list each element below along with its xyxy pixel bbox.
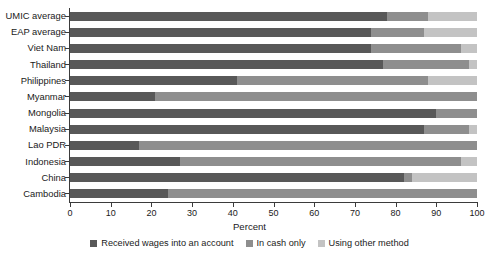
y-axis-tick [65, 145, 69, 146]
y-axis-category-label: Thailand [0, 60, 66, 70]
y-axis-category-label: EAP average [0, 27, 66, 37]
legend-item: In cash only [246, 238, 306, 248]
y-axis-tick [65, 161, 69, 162]
bar-row [70, 44, 477, 53]
x-axis-tick-label: 20 [136, 208, 166, 218]
bar-segment [70, 157, 180, 166]
bar-segment [70, 141, 139, 150]
legend-label: Using other method [329, 238, 409, 248]
x-axis-tick-label: 40 [218, 208, 248, 218]
x-axis-tick [314, 203, 315, 207]
y-axis-tick [65, 64, 69, 65]
stacked-bar-chart: UMIC averageEAP averageViet NamThailandP… [0, 0, 499, 259]
y-axis-category-label: Cambodia [0, 189, 66, 199]
y-axis-category-label: Lao PDR [0, 140, 66, 150]
x-axis-tick [192, 203, 193, 207]
chart-legend: Received wages into an accountIn cash on… [0, 238, 499, 248]
bar-row [70, 189, 477, 198]
x-axis-tick-label: 70 [340, 208, 370, 218]
y-axis-tick [65, 80, 69, 81]
y-axis-category-label: UMIC average [0, 11, 66, 21]
bar-segment [428, 76, 477, 85]
legend-swatch-icon [318, 240, 325, 247]
bar-segment [387, 12, 428, 21]
y-axis-labels: UMIC averageEAP averageViet NamThailandP… [0, 8, 66, 202]
bar-segment [70, 28, 371, 37]
legend-item: Using other method [318, 238, 409, 248]
bar-segment [404, 173, 412, 182]
bar-segment [70, 92, 155, 101]
bar-row [70, 60, 477, 69]
x-axis-tick-label: 100 [462, 208, 492, 218]
bar-segment [237, 76, 428, 85]
x-axis-tick [151, 203, 152, 207]
x-axis-tick-label: 90 [421, 208, 451, 218]
x-axis-tick-label: 50 [259, 208, 289, 218]
bar-row [70, 109, 477, 118]
bar-row [70, 76, 477, 85]
x-axis-title: Percent [0, 221, 499, 232]
x-axis-tick-label: 0 [55, 208, 85, 218]
bar-segment [412, 173, 477, 182]
legend-label: In cash only [257, 238, 306, 248]
y-axis-tick [65, 32, 69, 33]
bar-segment [70, 60, 383, 69]
bar-segment [383, 60, 468, 69]
y-axis-tick [65, 48, 69, 49]
x-axis-tick [477, 203, 478, 207]
x-axis-tick [274, 203, 275, 207]
y-axis-category-label: Myanmar [0, 92, 66, 102]
x-axis-tick-label: 80 [381, 208, 411, 218]
bar-segment [155, 92, 477, 101]
bar-row [70, 92, 477, 101]
y-axis-category-label: Malaysia [0, 124, 66, 134]
bar-segment [371, 28, 424, 37]
bar-segment [469, 125, 477, 134]
y-axis-tick [65, 16, 69, 17]
bar-segment [180, 157, 461, 166]
x-axis-tick [355, 203, 356, 207]
y-axis-tick [65, 96, 69, 97]
y-axis-tick [65, 113, 69, 114]
y-axis-category-label: Indonesia [0, 157, 66, 167]
bar-segment [70, 125, 424, 134]
bar-row [70, 157, 477, 166]
y-axis-category-label: Viet Nam [0, 43, 66, 53]
x-axis-tick [396, 203, 397, 207]
x-axis-tick [233, 203, 234, 207]
bar-row [70, 173, 477, 182]
bar-segment [70, 12, 387, 21]
y-axis-category-label: Mongolia [0, 108, 66, 118]
legend-label: Received wages into an account [101, 238, 233, 248]
x-axis-tick-label: 60 [299, 208, 329, 218]
bar-row [70, 28, 477, 37]
bar-row [70, 141, 477, 150]
bar-segment [469, 60, 477, 69]
bar-segment [424, 28, 477, 37]
y-axis-tick [65, 193, 69, 194]
x-axis-tick-label: 10 [96, 208, 126, 218]
y-axis-category-label: China [0, 173, 66, 183]
bar-segment [428, 12, 477, 21]
x-axis-tick [111, 203, 112, 207]
x-axis-tick-label: 30 [177, 208, 207, 218]
bar-segment [139, 141, 477, 150]
bar-segment [424, 125, 469, 134]
bar-row [70, 12, 477, 21]
y-axis-category-label: Philippines [0, 76, 66, 86]
bar-segment [70, 44, 371, 53]
legend-swatch-icon [90, 240, 97, 247]
bar-segment [461, 44, 477, 53]
bar-segment [168, 189, 477, 198]
bar-segment [371, 44, 461, 53]
legend-swatch-icon [246, 240, 253, 247]
y-axis-tick [65, 129, 69, 130]
bar-segment [70, 109, 436, 118]
bar-segment [70, 189, 168, 198]
bar-segment [70, 76, 237, 85]
y-axis-tick [65, 177, 69, 178]
plot-area [70, 8, 477, 202]
bar-segment [461, 157, 477, 166]
bar-segment [436, 109, 477, 118]
bar-segment [70, 173, 404, 182]
